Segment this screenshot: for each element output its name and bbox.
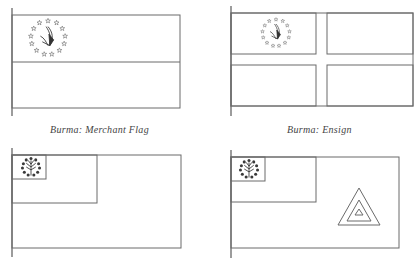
cross-quadrant — [327, 13, 413, 54]
tree-star-emblem-icon — [239, 159, 259, 179]
inner-triangle-icon — [355, 209, 363, 215]
cross-quadrant — [231, 65, 316, 106]
flag-outline — [231, 13, 413, 106]
ensign-figure — [231, 6, 413, 116]
merchant-flag-caption: Burma: Merchant Flag — [50, 124, 149, 135]
tree-star-emblem-icon — [21, 157, 41, 177]
outer-triangle-icon — [338, 188, 380, 225]
cross-quadrant — [327, 65, 413, 106]
ensign-caption: Burma: Ensign — [287, 124, 352, 135]
triangle-flag-figure — [231, 150, 399, 258]
canton — [231, 157, 316, 202]
cross-quadrant — [231, 13, 316, 54]
merchant-flag-figure — [12, 8, 180, 116]
peacock-star-emblem-icon — [28, 18, 67, 56]
peacock-star-emblem-icon — [261, 17, 292, 47]
canton-flag-figure — [12, 148, 181, 257]
